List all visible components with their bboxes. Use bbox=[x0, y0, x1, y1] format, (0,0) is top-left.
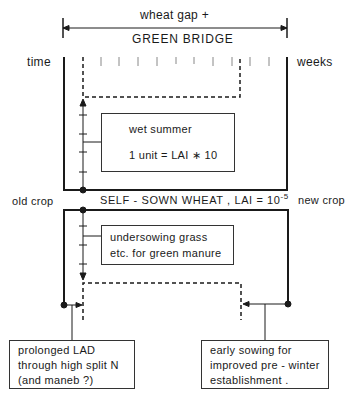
unit-definition-text: 1 unit = LAI ∗ 10 bbox=[129, 148, 217, 163]
wheat-gap-label: wheat gap + bbox=[140, 9, 209, 22]
self-sown-wheat-label: SELF - SOWN WHEAT , LAI = 10-5 bbox=[100, 194, 289, 207]
callout-left-line-1: prolonged LAD bbox=[18, 343, 134, 358]
lower-lai-axis bbox=[79, 207, 101, 280]
wet-summer-box: wet summer 1 unit = LAI ∗ 10 bbox=[101, 113, 235, 172]
undersowing-line-2: etc. for green manure bbox=[110, 246, 221, 261]
new-crop-label: new crop bbox=[298, 194, 345, 207]
lower-dashed-outline bbox=[83, 283, 241, 320]
prolonged-lad-callout: prolonged LAD through high split N (and … bbox=[9, 340, 135, 389]
undersowing-box: undersowing grass etc. for green manure bbox=[101, 225, 234, 265]
weeks-axis-label: weeks bbox=[297, 56, 333, 69]
callout-right-line-1: early sowing for bbox=[210, 343, 328, 358]
early-sowing-callout: early sowing for improved pre - winter e… bbox=[201, 340, 329, 389]
callout-left-line-2: through high split N bbox=[18, 358, 134, 373]
undersowing-line-1: undersowing grass bbox=[110, 230, 207, 245]
callout-right-line-3: establishment . bbox=[210, 373, 328, 388]
upper-dashed-outline bbox=[83, 57, 240, 97]
old-crop-label: old crop bbox=[12, 195, 54, 208]
lai-exponent: -5 bbox=[281, 192, 289, 201]
right-extension-arrow bbox=[243, 301, 291, 340]
callout-right-line-2: improved pre - winter bbox=[210, 358, 328, 373]
self-sown-wheat-text: SELF - SOWN WHEAT , LAI = 10 bbox=[100, 194, 281, 206]
left-extension-arrow bbox=[61, 302, 82, 340]
wet-summer-text: wet summer bbox=[129, 122, 192, 137]
week-ticks bbox=[101, 57, 269, 66]
time-axis-label: time bbox=[27, 56, 51, 69]
callout-left-line-3: (and maneb ?) bbox=[18, 373, 134, 388]
green-bridge-label: GREEN BRIDGE bbox=[132, 33, 234, 46]
upper-lai-axis bbox=[79, 99, 101, 193]
